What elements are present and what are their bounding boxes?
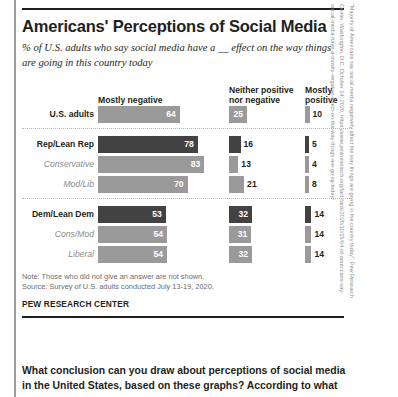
bar-neith: 21	[229, 176, 244, 193]
bar-track-neith: 25	[229, 106, 301, 123]
chart-row: U.S. adults642510	[22, 106, 352, 123]
chart-notes: Note: Those who did not give an answer a…	[22, 272, 352, 293]
bar-neg: 70	[98, 176, 188, 193]
bar-track-neith: 32	[229, 206, 301, 223]
row-label: Dem/Lean Dem	[22, 206, 94, 223]
note-line: Note: Those who did not give an answer a…	[22, 272, 352, 283]
bar-track-neg: 64	[98, 106, 226, 123]
group-divider	[22, 128, 352, 130]
column-header-neither: Neither positive nor negative	[229, 85, 303, 106]
bar-value: 70	[174, 179, 184, 189]
chart-row: Liberal543214	[22, 246, 352, 263]
chart-row: Conservative83134	[22, 156, 352, 173]
page-canvas: Americans' Perceptions of Social Media %…	[0, 0, 398, 397]
bar-track-neith: 16	[229, 136, 301, 153]
bar-pos: 8	[305, 176, 309, 193]
bar-value: 16	[244, 139, 254, 149]
bar-pos: 10	[305, 106, 310, 123]
chart-row: Rep/Lean Rep78165	[22, 136, 352, 153]
bar-value: 32	[238, 249, 248, 259]
bar-track-neg: 54	[98, 226, 226, 243]
chart-row: Mod/Lib70218	[22, 176, 352, 193]
bar-value: 78	[184, 139, 194, 149]
page-title: Americans' Perceptions of Social Media	[22, 17, 352, 35]
title-top-rule	[22, 8, 344, 10]
chart-group-republican: Rep/Lean Rep78165Conservative83134Mod/Li…	[22, 136, 352, 193]
bar-value: 31	[238, 229, 248, 239]
bar-value: 53	[152, 209, 162, 219]
bar-neith: 32	[229, 206, 252, 223]
row-label: Liberal	[22, 246, 94, 263]
chart-group-democrat: Dem/Lean Dem533214Cons/Mod543114Liberal5…	[22, 206, 352, 263]
source-line: Source: Survey of U.S. adults conducted …	[22, 282, 352, 293]
bar-pos: 5	[305, 136, 309, 153]
infographic-card: Americans' Perceptions of Social Media %…	[22, 8, 352, 318]
group-divider	[22, 198, 352, 200]
bar-value: 64	[166, 109, 176, 119]
row-label: Mod/Lib	[22, 176, 94, 193]
bar-track-neith: 32	[229, 246, 301, 263]
bottom-rule	[22, 316, 344, 318]
row-label: Rep/Lean Rep	[22, 136, 94, 153]
bar-value: 32	[238, 209, 248, 219]
bar-track-neg: 54	[98, 246, 226, 263]
brand-pew-research-center: PEW RESEARCH CENTER	[22, 299, 352, 309]
bar-neg: 78	[98, 136, 198, 153]
chart-body: U.S. adults642510Rep/Lean Rep78165Conser…	[22, 106, 352, 263]
bar-neith: 16	[229, 136, 241, 153]
row-label: Cons/Mod	[22, 226, 94, 243]
bar-track-neg: 70	[98, 176, 226, 193]
bar-value: 54	[154, 249, 164, 259]
question-prompt: What conclusion can you draw about perce…	[22, 364, 352, 394]
chart-group-total: U.S. adults642510	[22, 106, 352, 123]
bar-track-neg: 53	[98, 206, 226, 223]
bar-pos: 14	[305, 246, 311, 263]
bar-pos: 14	[305, 226, 311, 243]
bar-pos: 14	[305, 206, 311, 223]
bar-value: 21	[247, 179, 257, 189]
bar-track-neg: 83	[98, 156, 226, 173]
bar-neith: 31	[229, 226, 251, 243]
bar-neith: 32	[229, 246, 252, 263]
bar-value: 25	[233, 109, 243, 119]
bar-track-neith: 21	[229, 176, 301, 193]
bar-neg: 83	[98, 156, 204, 173]
column-headers: Mostly negative Neither positive nor neg…	[22, 78, 352, 106]
bar-track-neith: 31	[229, 226, 301, 243]
chart-row: Cons/Mod543114	[22, 226, 352, 243]
bar-value: 83	[191, 159, 201, 169]
rotated-citation: “Majority of Americans say social media …	[316, 4, 356, 304]
bar-neg: 54	[98, 246, 167, 263]
bar-value: 13	[241, 159, 251, 169]
row-label: Conservative	[22, 156, 94, 173]
bar-track-neg: 78	[98, 136, 226, 153]
bar-neith: 25	[229, 106, 247, 123]
bar-neg: 54	[98, 226, 167, 243]
chart-subtitle: % of U.S. adults who say social media ha…	[22, 41, 342, 69]
column-header-mostly-negative: Mostly negative	[98, 95, 162, 105]
left-gutter-rule	[14, 0, 16, 397]
chart-row: Dem/Lean Dem533214	[22, 206, 352, 223]
bar-neith: 13	[229, 156, 238, 173]
bar-pos: 4	[305, 156, 309, 173]
row-label: U.S. adults	[22, 106, 94, 123]
bar-neg: 64	[98, 106, 180, 123]
bar-value: 54	[154, 229, 164, 239]
bar-track-neith: 13	[229, 156, 301, 173]
bar-neg: 53	[98, 206, 166, 223]
